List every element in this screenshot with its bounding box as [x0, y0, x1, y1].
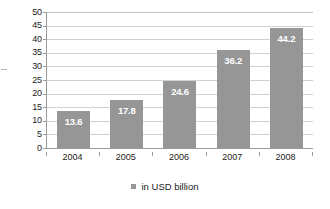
bar-value-label: 24.6	[163, 87, 196, 97]
bar-value-label: 36.2	[217, 56, 250, 66]
x-tick-mark	[259, 152, 260, 156]
bar-value-label: 17.8	[110, 106, 143, 116]
x-tick-mark	[99, 152, 100, 156]
x-tick-label: 2007	[206, 152, 259, 163]
x-tick-mark	[312, 152, 313, 156]
x-tick-mark	[152, 152, 153, 156]
y-tick-label: 20	[2, 89, 42, 98]
x-axis: 20042005200620072008	[46, 152, 312, 168]
x-tick-label: 2004	[46, 152, 99, 163]
x-tick-label: 2008	[259, 152, 312, 163]
bar-group: 17.8	[100, 12, 153, 148]
y-tick-label: 30	[2, 62, 42, 71]
x-tick-label: 2006	[152, 152, 205, 163]
bar[interactable]: 36.2	[217, 50, 250, 148]
bar-value-label: 44.2	[270, 34, 303, 44]
bar-chart: 05101520253035404550 13.617.824.636.244.…	[0, 0, 330, 209]
y-tick-label: 45	[2, 21, 42, 30]
legend-swatch-icon	[131, 184, 136, 189]
bar-group: 13.6	[47, 12, 100, 148]
x-tick-mark	[46, 152, 47, 156]
bar[interactable]: 44.2	[270, 28, 303, 148]
y-tick-label: 5	[2, 130, 42, 139]
y-tick-label: 10	[2, 116, 42, 125]
x-tick-label: 2005	[99, 152, 152, 163]
y-axis: 05101520253035404550	[0, 0, 42, 160]
plot-area: 13.617.824.636.244.2	[46, 12, 313, 149]
y-tick-label: 15	[2, 103, 42, 112]
bar-group: 36.2	[207, 12, 260, 148]
y-tick-label: 50	[2, 8, 42, 17]
y-tick-label: 40	[2, 35, 42, 44]
bar[interactable]: 24.6	[163, 81, 196, 148]
bar-group: 24.6	[153, 12, 206, 148]
bar-group: 44.2	[260, 12, 313, 148]
bar-value-label: 13.6	[57, 117, 90, 127]
y-tick-label: 0	[2, 144, 42, 153]
legend-item[interactable]: in USD billion	[131, 181, 198, 192]
y-tick-label: 25	[2, 76, 42, 85]
legend-label: in USD billion	[141, 181, 198, 192]
bar[interactable]: 17.8	[110, 100, 143, 148]
bar[interactable]: 13.6	[57, 111, 90, 148]
y-tick-label: 35	[2, 48, 42, 57]
legend: in USD billion	[0, 181, 330, 192]
x-tick-mark	[206, 152, 207, 156]
